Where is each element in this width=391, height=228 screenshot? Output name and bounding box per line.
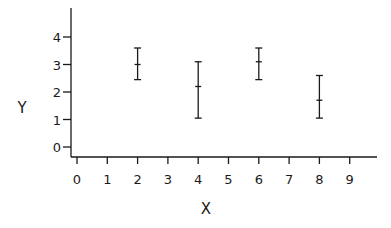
y-tick-label: 1 (53, 113, 61, 128)
x-tick-label: 5 (224, 172, 232, 187)
axes (71, 8, 377, 157)
error-bar (134, 48, 141, 80)
error-bar (195, 62, 202, 118)
x-ticks: 0123456789 (73, 157, 354, 187)
y-tick-label: 3 (53, 58, 61, 73)
x-axis-label: X (201, 200, 211, 218)
x-tick-label: 1 (103, 172, 111, 187)
x-tick-label: 6 (255, 172, 263, 187)
error-bar-chart: 01234 0123456789 Y X (0, 0, 391, 228)
x-tick-label: 7 (285, 172, 293, 187)
x-tick-label: 4 (194, 172, 202, 187)
x-tick-label: 8 (315, 172, 323, 187)
y-ticks: 01234 (53, 30, 71, 155)
y-tick-label: 0 (53, 140, 61, 155)
x-tick-label: 3 (164, 172, 172, 187)
y-axis-label: Y (16, 99, 27, 117)
x-tick-label: 0 (73, 172, 81, 187)
error-bar (316, 76, 323, 119)
x-tick-label: 2 (133, 172, 141, 187)
y-tick-label: 4 (53, 30, 61, 45)
y-tick-label: 2 (53, 85, 61, 100)
error-bar (255, 48, 262, 80)
error-bars (134, 48, 323, 118)
x-tick-label: 9 (346, 172, 354, 187)
